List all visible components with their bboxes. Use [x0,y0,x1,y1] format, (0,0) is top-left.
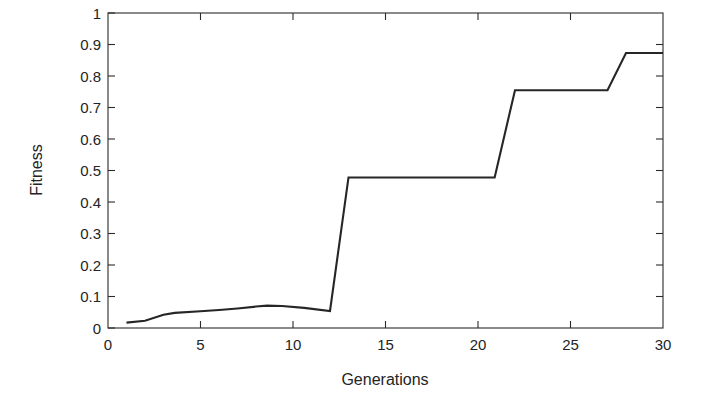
x-tick-label: 30 [655,336,672,353]
chart-figure: 0 0.1 0.2 0.3 0.4 0.5 0.6 0.7 0.8 0.9 1 … [0,0,701,401]
y-tick-label: 0 [93,320,101,337]
fitness-curve [127,53,664,323]
x-tick-label: 5 [196,336,204,353]
y-tick-label: 0.4 [80,194,101,211]
y-axis-title: Fitness [28,144,45,196]
y-tick-label: 0.6 [80,131,101,148]
x-tick-label: 25 [562,336,579,353]
x-axis-ticks [201,13,571,328]
x-tick-label: 0 [104,336,112,353]
y-tick-label: 0.7 [80,99,101,116]
y-tick-label: 0.9 [80,36,101,53]
x-tick-label: 20 [470,336,487,353]
y-tick-label: 0.8 [80,68,101,85]
y-tick-label: 0.2 [80,257,101,274]
y-tick-label: 1 [93,5,101,22]
fitness-vs-generations-chart: 0 0.1 0.2 0.3 0.4 0.5 0.6 0.7 0.8 0.9 1 … [0,0,701,401]
y-axis-ticks [108,13,663,328]
y-tick-label: 0.1 [80,288,101,305]
x-tick-labels: 0 5 10 15 20 25 30 [104,336,672,353]
y-tick-label: 0.3 [80,225,101,242]
x-tick-label: 10 [285,336,302,353]
y-tick-label: 0.5 [80,162,101,179]
y-tick-labels: 0 0.1 0.2 0.3 0.4 0.5 0.6 0.7 0.8 0.9 1 [80,5,101,337]
x-tick-label: 15 [377,336,394,353]
x-axis-title: Generations [341,371,428,388]
plot-axes-frame [108,13,663,328]
